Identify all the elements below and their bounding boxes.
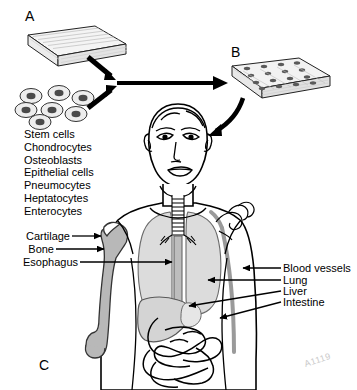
trachea	[172, 195, 184, 235]
tissue-engineering-figure: A B C Stem cells Chondrocytes Osteoblast…	[0, 0, 357, 390]
cell-type-list: Stem cells Chondrocytes Osteoblasts Epit…	[24, 128, 94, 218]
stomach	[181, 303, 201, 327]
cell-type-item: Stem cells	[24, 128, 94, 141]
arrow-scaffold-to-merge	[88, 57, 116, 80]
esophagus	[174, 236, 182, 304]
label-blood-vessels: Blood vessels	[283, 262, 351, 275]
cell-type-item: Chondrocytes	[24, 141, 94, 154]
label-cartilage: Cartilage	[6, 230, 70, 243]
panel-letter-c: C	[39, 357, 49, 373]
arrow-implantation	[208, 98, 243, 136]
panel-letter-b: B	[231, 44, 240, 60]
cell-type-item: Osteoblasts	[24, 154, 94, 167]
label-intestine: Intestine	[283, 296, 325, 309]
scaffold-unseeded	[28, 26, 127, 66]
cell-cluster	[15, 86, 94, 130]
cell-type-item: Pneumocytes	[24, 179, 94, 192]
panel-letter-a: A	[25, 8, 34, 24]
cell-type-item: Epithelial cells	[24, 166, 94, 179]
scaffold-seeded	[232, 58, 330, 98]
cell-type-item: Heptatocytes	[24, 192, 94, 205]
label-esophagus: Esophagus	[6, 256, 78, 269]
arrow-merge-to-panel-b	[117, 76, 228, 90]
cell-type-item: Enterocytes	[24, 205, 94, 218]
label-bone: Bone	[6, 243, 54, 256]
